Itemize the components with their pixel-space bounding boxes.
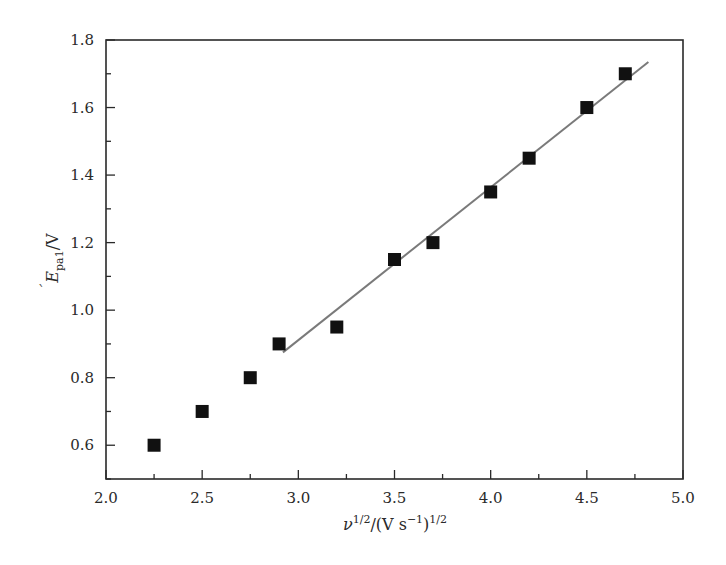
square-marker — [619, 67, 632, 80]
x-axis-label: ν1/2/(V s−1)1/2 — [343, 513, 447, 534]
x-axis-ticks: 2.02.53.03.54.04.55.0 — [94, 470, 695, 507]
x-tick-label: 3.5 — [383, 489, 407, 507]
data-points — [148, 67, 632, 451]
y-tick-label: 1.8 — [70, 31, 94, 49]
square-marker — [426, 236, 439, 249]
x-tick-label: 2.0 — [94, 489, 118, 507]
square-marker — [273, 337, 286, 350]
x-tick-label: 5.0 — [671, 489, 695, 507]
chart: 2.02.53.03.54.04.55.0 0.60.81.01.21.41.6… — [0, 0, 726, 565]
y-tick-label: 0.8 — [70, 369, 94, 387]
fit-line — [283, 62, 648, 352]
square-marker — [196, 405, 209, 418]
y-tick-label: 0.6 — [70, 436, 94, 454]
square-marker — [148, 439, 161, 452]
y-tick-label: 1.2 — [70, 234, 94, 252]
stray-mark: ` — [38, 283, 45, 299]
y-axis-ticks: 0.60.81.01.21.41.61.8 — [70, 31, 115, 479]
x-tick-label: 4.0 — [479, 489, 503, 507]
x-tick-label: 2.5 — [190, 489, 214, 507]
y-axis-label: Epa1/V — [43, 233, 66, 284]
square-marker — [330, 321, 343, 334]
square-marker — [388, 253, 401, 266]
linear-fit-line — [283, 62, 648, 352]
square-marker — [523, 152, 536, 165]
square-marker — [580, 101, 593, 114]
x-tick-label: 3.0 — [286, 489, 310, 507]
y-tick-label: 1.0 — [70, 301, 94, 319]
square-marker — [484, 185, 497, 198]
square-marker — [244, 371, 257, 384]
y-tick-label: 1.4 — [70, 166, 94, 184]
y-tick-label: 1.6 — [70, 99, 94, 117]
x-tick-label: 4.5 — [575, 489, 599, 507]
